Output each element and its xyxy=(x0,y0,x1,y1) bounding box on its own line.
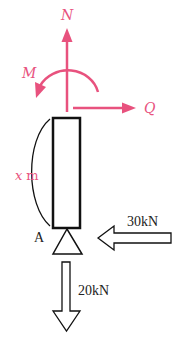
horizontal-load-label: 30kN xyxy=(127,214,158,229)
length-label: xm xyxy=(15,168,39,183)
vertical-load-arrow-icon xyxy=(53,262,80,331)
free-body-diagram: N M Q xm A 30kN 20kN xyxy=(0,0,183,354)
axial-force-label: N xyxy=(60,7,74,23)
support-label: A xyxy=(34,230,45,245)
pin-support-icon xyxy=(53,229,82,254)
horizontal-load-arrow-icon xyxy=(98,226,171,250)
vertical-load-label: 20kN xyxy=(78,283,109,298)
beam-segment xyxy=(53,118,80,228)
shear-force-label: Q xyxy=(144,100,156,116)
internal-forces: N M Q xyxy=(21,7,156,116)
moment-label: M xyxy=(21,65,37,81)
shear-force-arrow-icon xyxy=(73,103,136,114)
